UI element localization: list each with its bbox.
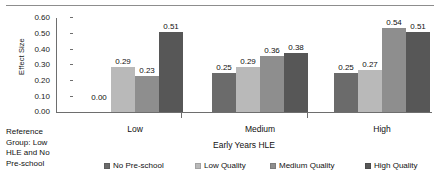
legend-item-no-preschool[interactable]: No Pre-school (104, 161, 164, 170)
bar-high-low-quality[interactable] (358, 70, 382, 112)
x-axis-group-labels: Low Medium High (56, 124, 432, 136)
top-divider (6, 5, 434, 6)
bar-high-high-quality[interactable] (406, 32, 430, 112)
reference-group-note: Reference Group: Low HLE and No Pre-scho… (6, 127, 101, 169)
reference-note-line-3: HLE and No (6, 148, 101, 159)
legend-item-medium-quality[interactable]: Medium Quality (270, 161, 335, 170)
y-tick-label-000: 0.00 (34, 108, 50, 116)
bar-medium-low-quality[interactable] (236, 67, 260, 112)
bar-medium-high-quality[interactable] (284, 53, 308, 112)
legend-item-high-quality[interactable]: High Quality (365, 161, 418, 170)
x-axis-group-divider-1 (181, 112, 182, 118)
chart-figure: Effect Size 0.60 0.50 0.40 0.30 0.20 0.1… (0, 0, 439, 184)
legend-label-no-preschool: No Pre-school (113, 161, 164, 170)
bar-label-medium-low-quality: 0.29 (224, 58, 272, 66)
plot-area: 0.00 0.29 0.23 0.51 0.25 0.29 0.36 0.38 … (56, 18, 432, 112)
legend-label-medium-quality: Medium Quality (279, 161, 335, 170)
bar-label-low-no-preschool: 0.00 (75, 94, 123, 102)
y-tick-label-030: 0.30 (34, 61, 50, 69)
bar-label-high-high-quality: 0.51 (394, 23, 439, 31)
x-axis-group-divider-2 (307, 112, 308, 118)
y-tick-label-010: 0.10 (34, 93, 50, 101)
legend-label-low-quality: Low Quality (204, 161, 246, 170)
reference-note-line-1: Reference (6, 127, 101, 138)
y-tick-label-050: 0.50 (34, 30, 50, 38)
legend-swatch-icon-low-quality (195, 163, 201, 169)
y-tick-label-020: 0.20 (34, 77, 50, 85)
bar-low-medium-quality[interactable] (135, 76, 159, 112)
reference-note-line-2: Group: Low (6, 138, 101, 149)
bar-label-low-low-quality: 0.29 (99, 58, 147, 66)
bar-label-low-medium-quality: 0.23 (123, 67, 171, 75)
x-axis-line (56, 112, 432, 113)
bar-high-no-preschool[interactable] (334, 73, 358, 112)
y-tick-label-040: 0.40 (34, 46, 50, 54)
legend-label-high-quality: High Quality (374, 161, 418, 170)
bar-label-medium-high-quality: 0.38 (272, 44, 320, 52)
reference-note-line-4: Pre-school (6, 159, 101, 170)
bar-medium-no-preschool[interactable] (212, 73, 236, 112)
x-group-label-medium: Medium (210, 124, 310, 134)
legend-swatch-icon-no-preschool (104, 163, 110, 169)
y-axis-tick-labels: 0.60 0.50 0.40 0.30 0.20 0.10 0.00 (18, 14, 50, 112)
legend-swatch-icon-medium-quality (270, 163, 276, 169)
y-tick-label-060: 0.60 (34, 14, 50, 22)
legend-swatch-icon-high-quality (365, 163, 371, 169)
bar-label-high-low-quality: 0.27 (346, 61, 394, 69)
bar-high-medium-quality[interactable] (382, 28, 406, 112)
bar-label-low-high-quality: 0.51 (147, 23, 195, 31)
bars-layer: 0.00 0.29 0.23 0.51 0.25 0.29 0.36 0.38 … (56, 18, 432, 112)
x-axis-title: Early Years HLE (56, 140, 432, 150)
x-group-label-high: High (332, 124, 432, 134)
legend-item-low-quality[interactable]: Low Quality (195, 161, 246, 170)
chart-legend: No Pre-school Low Quality Medium Quality… (104, 161, 434, 175)
